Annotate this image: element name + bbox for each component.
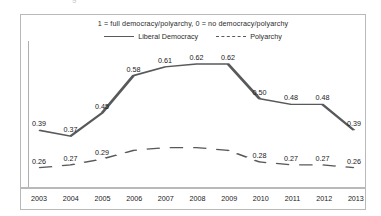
data-label: 0.37 [64,125,78,134]
x-tick-label: 2008 [190,194,206,203]
x-tick-label: 2004 [63,194,79,203]
plot-area: 0.390.370.450.580.610.620.620.500.480.48… [29,41,364,185]
x-tick-label: 2009 [221,194,237,203]
data-label: 0.27 [315,154,329,163]
x-tick-label: 2007 [158,194,174,203]
legend-line-dashed-icon [216,36,246,37]
data-label: 0.62 [190,53,204,62]
data-label: 0.61 [158,56,172,65]
legend-line-solid-icon [104,36,134,37]
data-label: 0.27 [284,154,298,163]
x-tick-label: 2005 [94,194,110,203]
x-tick-label: 2011 [285,194,300,203]
data-label: 0.39 [32,119,46,128]
data-label: 0.48 [315,93,329,102]
legend-item-liberal-democracy[interactable]: Liberal Democracy [104,32,198,41]
line-liberal-democracy [39,64,354,136]
data-label: 0.27 [64,154,78,163]
x-tick-label: 2013 [348,194,364,203]
x-axis: 2003200420052006200720082009201020112012… [20,188,366,210]
legend-label-polyarchy: Polyarchy [250,32,282,41]
x-tick-label: 2006 [126,194,142,203]
data-label: 0.26 [32,157,46,166]
chart-subtitle: 1 = full democracy/polyarchy, 0 = no dem… [21,19,365,28]
data-label: 0.45 [95,102,109,111]
data-label: 0.50 [252,88,266,97]
x-tick-label: 2003 [31,194,47,203]
data-label: 0.28 [252,151,266,160]
x-tick-label: 2012 [316,194,332,203]
data-label: 0.39 [347,119,361,128]
data-label: 0.48 [284,93,298,102]
chart-legend: Liberal Democracy Polyarchy [21,32,365,41]
clipped-glyph-artifact: g [72,0,76,3]
data-label: 0.58 [127,65,141,74]
data-label: 0.62 [221,53,235,62]
series-canvas [29,41,364,185]
data-label: 0.29 [95,148,109,157]
x-tick-label: 2010 [253,194,269,203]
line-polyarchy [39,148,354,168]
chart-frame: 1 = full democracy/polyarchy, 0 = no dem… [20,14,366,188]
legend-item-polyarchy[interactable]: Polyarchy [216,32,282,41]
data-label: 0.26 [347,157,361,166]
legend-label-liberal-democracy: Liberal Democracy [138,32,198,41]
